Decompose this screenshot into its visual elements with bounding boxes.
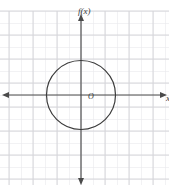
y-axis	[78, 14, 84, 185]
x-axis-label: x	[166, 94, 169, 103]
origin-label: O	[88, 93, 94, 101]
x-axis	[2, 92, 167, 98]
plot-svg	[0, 0, 169, 185]
function-axis-label: f(x)	[78, 7, 91, 16]
coordinate-plane-figure: f(x) O x	[0, 0, 169, 185]
